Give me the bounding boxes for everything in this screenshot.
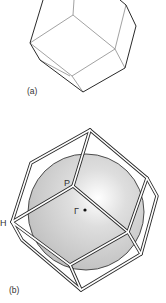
panel-a-polyhedron [30,0,136,92]
point-label-p: P [64,178,70,188]
point-label-gamma: Γ [74,206,79,216]
panel-a-label: (a) [27,86,38,96]
gamma-point-dot [83,208,86,211]
diagram-canvas: (a) P H Γ (b) [0,0,166,303]
point-label-h: H [0,218,7,228]
panel-b-sphere [28,154,144,270]
panel-b-label: (b) [9,285,20,295]
